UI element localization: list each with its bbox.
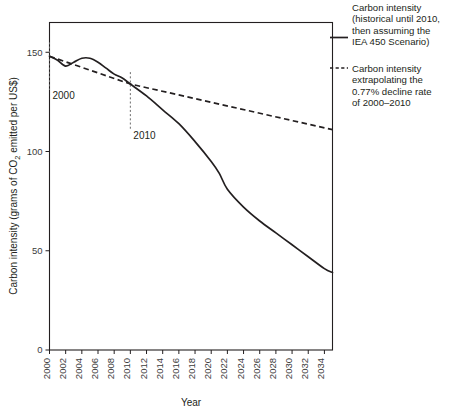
- x-tick-label: 2026: [251, 358, 262, 379]
- legend-entry-label: Carbon intensity: [352, 2, 422, 13]
- y-axis-ticks: [46, 52, 50, 350]
- y-tick-label: 150: [27, 47, 43, 58]
- y-tick-label: 50: [32, 245, 43, 256]
- x-tick-label: 2028: [267, 358, 278, 379]
- y-tick-label: 0: [37, 344, 42, 355]
- x-tick-label: 2004: [73, 358, 84, 379]
- chart-figure: 050100150 200020022004200620082010201220…: [0, 0, 454, 415]
- x-tick-label: 2018: [186, 358, 197, 379]
- x-tick-label: 2002: [57, 358, 68, 379]
- series-extrapolated-line: [50, 56, 333, 129]
- legend-entry-label: 0.77% decline rate: [352, 86, 431, 97]
- x-axis-title: Year: [181, 397, 202, 408]
- x-tick-label: 2020: [202, 358, 213, 379]
- x-axis-tick-labels: 2000200220042006200820102012201420162018…: [41, 358, 327, 379]
- x-tick-label: 2008: [105, 358, 116, 379]
- legend-entry-label: IEA 450 Scenario): [352, 36, 429, 47]
- annotation-markers: [50, 42, 131, 129]
- x-tick-label: 2032: [299, 358, 310, 379]
- x-tick-label: 2016: [170, 358, 181, 379]
- annotation-label: 2010: [133, 130, 156, 141]
- x-tick-label: 2010: [121, 358, 132, 379]
- legend-entry-label: then assuming the: [352, 25, 430, 36]
- annotation-label: 2000: [53, 90, 76, 101]
- x-tick-label: 2006: [89, 358, 100, 379]
- annotation-labels: 20002010: [53, 90, 157, 141]
- x-tick-label: 2030: [283, 358, 294, 379]
- y-tick-label: 100: [27, 146, 43, 157]
- legend-entry-label: (historical until 2010,: [352, 13, 440, 24]
- x-tick-label: 2022: [218, 358, 229, 379]
- x-axis-ticks: [50, 350, 325, 354]
- legend-entry-label: of 2000–2010: [352, 97, 411, 108]
- series-historical-ieа-line: [50, 56, 333, 272]
- legend-entry-label: extrapolating the: [352, 74, 423, 85]
- x-tick-label: 2024: [235, 358, 246, 379]
- x-tick-label: 2000: [41, 358, 52, 379]
- x-tick-label: 2012: [138, 358, 149, 379]
- x-tick-label: 2014: [154, 358, 165, 379]
- legend-entry-label: Carbon intensity: [352, 63, 422, 74]
- chart-legend: Carbon intensity(historical until 2010,t…: [330, 2, 440, 109]
- y-axis-tick-labels: 050100150: [27, 47, 43, 356]
- chart-canvas: 050100150 200020022004200620082010201220…: [0, 0, 454, 415]
- y-axis-title: Carbon intensity (grams of CO2 emitted p…: [8, 77, 22, 295]
- x-tick-label: 2034: [315, 358, 326, 379]
